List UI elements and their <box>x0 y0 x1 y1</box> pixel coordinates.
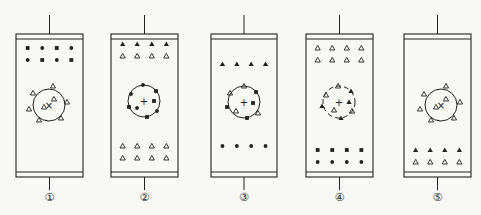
square-particle-icon <box>251 101 255 105</box>
filled-triangle-particle-icon <box>164 41 169 46</box>
open-triangle-particle-icon <box>315 57 320 62</box>
column-label: ③ <box>239 191 249 204</box>
column-4: ④+ <box>306 15 373 204</box>
square-particle-icon <box>145 115 149 119</box>
column-diagram: ①×②+③+④+⑤× <box>0 0 481 215</box>
filled-triangle-particle-icon <box>220 61 225 66</box>
open-triangle-particle-icon <box>323 92 328 97</box>
open-triangle-particle-icon <box>149 53 154 58</box>
open-triangle-particle-icon <box>359 57 364 62</box>
square-particle-icon <box>152 99 156 103</box>
filled-triangle-particle-icon <box>442 147 447 152</box>
particle-row-bottom-row-2 <box>413 159 462 164</box>
plus-mark-icon: + <box>140 96 148 107</box>
dot-particle-icon <box>155 109 159 113</box>
square-particle-icon <box>225 105 229 109</box>
open-triangle-particle-icon <box>443 83 448 88</box>
square-particle-icon <box>359 148 363 152</box>
open-triangle-particle-icon <box>120 53 125 58</box>
column-label: ① <box>45 191 55 204</box>
square-particle-icon <box>245 116 249 120</box>
dot-particle-icon <box>345 160 349 164</box>
column-5: ⑤× <box>404 15 471 204</box>
open-triangle-particle-icon <box>413 159 418 164</box>
dot-particle-icon <box>69 46 73 50</box>
open-triangle-particle-icon <box>421 91 426 96</box>
open-triangle-particle-icon <box>36 117 41 122</box>
open-triangle-particle-icon <box>344 57 349 62</box>
dot-particle-icon <box>129 92 133 96</box>
open-triangle-particle-icon <box>344 45 349 50</box>
column-3: ③+ <box>211 15 277 204</box>
particle-row-top-row <box>220 61 268 66</box>
filled-triangle-particle-icon <box>346 99 351 104</box>
column-label: ② <box>140 191 150 204</box>
square-particle-icon <box>127 105 131 109</box>
particle-row-bottom-row <box>221 144 268 148</box>
column-label: ④ <box>335 191 345 204</box>
plus-mark-icon: + <box>335 97 343 108</box>
column-2: ②+ <box>111 15 178 204</box>
particle-row-top-row-2 <box>315 57 364 62</box>
square-particle-icon <box>345 148 349 152</box>
square-particle-icon <box>40 58 44 62</box>
dot-particle-icon <box>221 144 225 148</box>
square-particle-icon <box>154 89 158 93</box>
open-triangle-particle-icon <box>428 159 433 164</box>
open-triangle-particle-icon <box>50 83 55 88</box>
filled-triangle-particle-icon <box>348 88 353 93</box>
filled-triangle-particle-icon <box>135 41 140 46</box>
dot-particle-icon <box>135 106 139 110</box>
filled-triangle-particle-icon <box>249 61 254 66</box>
open-triangle-particle-icon <box>135 143 140 148</box>
open-triangle-particle-icon <box>135 53 140 58</box>
open-triangle-particle-icon <box>417 106 422 111</box>
open-triangle-particle-icon <box>233 108 238 113</box>
dot-particle-icon <box>55 58 59 62</box>
particle-row-bottom-row-1 <box>413 147 462 152</box>
open-triangle-particle-icon <box>442 159 447 164</box>
open-triangle-particle-icon <box>331 107 336 112</box>
filled-triangle-particle-icon <box>413 147 418 152</box>
filled-triangle-particle-icon <box>428 147 433 152</box>
open-triangle-particle-icon <box>120 155 125 160</box>
open-triangle-particle-icon <box>164 155 169 160</box>
dot-particle-icon <box>40 46 44 50</box>
particle-row-top-row-1 <box>26 46 73 50</box>
open-triangle-particle-icon <box>149 155 154 160</box>
particle-row-bottom-row-1 <box>316 148 363 152</box>
square-particle-icon <box>316 148 320 152</box>
square-particle-icon <box>26 46 30 50</box>
open-triangle-particle-icon <box>428 117 433 122</box>
particle-row-top-row-1 <box>120 41 169 46</box>
open-triangle-particle-icon <box>30 90 35 95</box>
particle-row-bottom-row-2 <box>120 155 169 160</box>
filled-triangle-particle-icon <box>319 103 324 108</box>
filled-triangle-particle-icon <box>120 41 125 46</box>
filled-triangle-particle-icon <box>263 61 268 66</box>
open-triangle-particle-icon <box>315 45 320 50</box>
dot-particle-icon <box>264 144 268 148</box>
open-triangle-particle-icon <box>457 99 462 104</box>
dot-particle-icon <box>330 160 334 164</box>
particle-row-top-row-2 <box>120 53 169 58</box>
dot-particle-icon <box>26 58 30 62</box>
dot-particle-icon <box>249 144 253 148</box>
column-1: ①× <box>16 15 83 204</box>
filled-triangle-particle-icon <box>234 61 239 66</box>
square-particle-icon <box>330 148 334 152</box>
open-triangle-particle-icon <box>359 45 364 50</box>
square-particle-icon <box>254 90 258 94</box>
dot-particle-icon <box>359 160 363 164</box>
column-label: ⑤ <box>433 191 443 204</box>
open-triangle-particle-icon <box>64 99 69 104</box>
open-triangle-particle-icon <box>135 155 140 160</box>
square-particle-icon <box>69 58 73 62</box>
open-triangle-particle-icon <box>330 57 335 62</box>
dot-particle-icon <box>141 83 145 87</box>
open-triangle-particle-icon <box>164 53 169 58</box>
filled-triangle-particle-icon <box>149 41 154 46</box>
dot-particle-icon <box>316 160 320 164</box>
open-triangle-particle-icon <box>164 143 169 148</box>
particle-row-top-row-2 <box>26 58 73 62</box>
